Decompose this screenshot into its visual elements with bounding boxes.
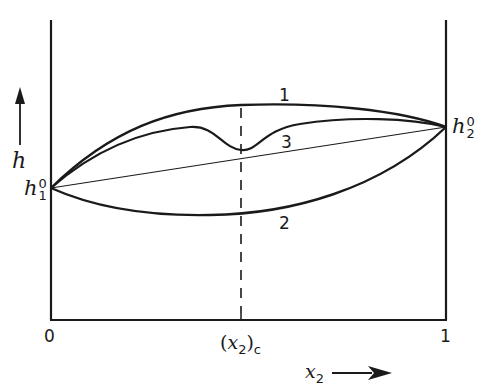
right-point-sub: 2 [467, 128, 475, 140]
y-axis-label: h [12, 148, 26, 173]
left-point-label: h01 [24, 176, 47, 202]
curve-1 [51, 104, 446, 188]
right-point-base: h [452, 114, 466, 138]
right-point-indices: 02 [467, 116, 475, 140]
critical-composition-label: (x2)c [220, 331, 261, 357]
x-axis-label-base: x [305, 360, 316, 382]
right-point-label: h02 [452, 114, 475, 140]
curve-1-label: 1 [279, 85, 290, 105]
curve-3 [51, 119, 446, 188]
left-point-sub: 1 [39, 190, 47, 202]
x-axis-label-sub: 2 [316, 371, 324, 386]
curve-3-label: 3 [281, 132, 292, 152]
ideal-mixing-line [51, 127, 446, 188]
left-point-indices: 01 [39, 178, 47, 202]
x-axis-label: x2 [305, 360, 324, 386]
y-axis-arrow-head-icon [15, 87, 25, 104]
curve-2 [51, 127, 446, 215]
critical-base: x [227, 331, 238, 353]
left-point-base: h [24, 176, 38, 200]
critical-subscript-c: c [254, 342, 261, 357]
enthalpy-composition-diagram [0, 0, 479, 388]
x-tick-0-label: 0 [44, 326, 55, 346]
curve-2-label: 2 [279, 213, 290, 233]
x-tick-1-label: 1 [440, 326, 451, 346]
critical-close-paren: ) [246, 331, 253, 353]
